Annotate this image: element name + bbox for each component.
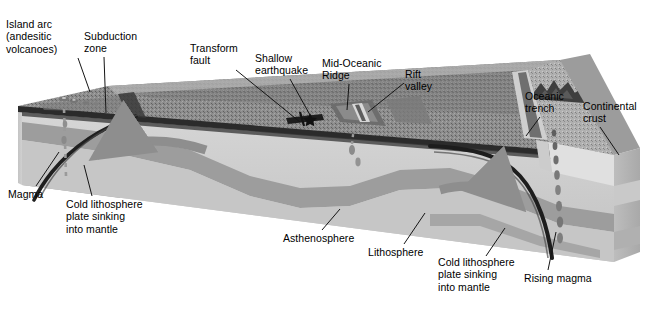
rift-valley-label: Rift valley [405,68,432,93]
cold-lithosphere-plate-sinking-right-label: Cold lithosphere plate sinking into mant… [438,256,515,293]
island-arc-label-leader-line [78,58,90,92]
cold-lithosphere-plate-sinking-left-label: Cold lithosphere plate sinking into mant… [66,198,143,235]
transform-fault-label: Transform fault [190,42,238,67]
mid-oceanic-ridge-label: Mid-Oceanic Ridge [322,57,381,82]
block-left-end-face [18,106,22,185]
magma-label: Magma [8,188,43,200]
island-arc-label: Island arc (andesitic volcanoes) [6,18,57,55]
rising-magma-label: Rising magma [524,272,592,284]
asthenosphere-label: Asthenosphere [283,232,354,244]
lithosphere-label: Lithosphere [368,246,423,258]
oceanic-trench-label: Oceanic trench [525,90,564,115]
continental-crust-label: Continental crust [583,100,637,125]
shallow-earthquake-label: Shallow earthquake [255,52,308,77]
figure-container: Island arc (andesitic volcanoes)Subducti… [0,0,654,311]
subduction-zone-label: Subduction zone [84,30,137,55]
